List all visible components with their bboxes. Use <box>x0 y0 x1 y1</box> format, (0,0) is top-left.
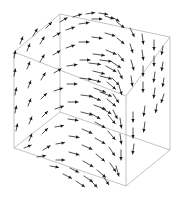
vector-arrow-head <box>14 106 17 109</box>
vector-arrow-head <box>13 69 16 72</box>
vector-arrow-head <box>160 67 163 70</box>
vector-arrow-head <box>99 17 102 20</box>
box-edge-front-top <box>14 52 126 96</box>
vector-arrow-head <box>75 100 78 103</box>
box-edge-depth-top-left <box>14 14 60 52</box>
vector-arrow-head <box>104 12 107 15</box>
vector-arrow-head <box>101 72 104 75</box>
vector-arrow-head <box>42 154 45 157</box>
box-edge-back-top <box>60 14 170 37</box>
vector-arrow-head <box>112 33 115 36</box>
vector-arrow-head <box>55 165 58 168</box>
vector-arrow-head <box>161 83 164 86</box>
vector-arrow-head <box>131 67 134 70</box>
vector-arrow-head <box>131 119 134 122</box>
box-edge-front-bottom <box>14 148 126 186</box>
vector-arrow-head <box>141 89 144 92</box>
vector-arrow-head <box>15 124 18 127</box>
vector-arrow-layer <box>13 11 165 187</box>
vector-arrow-head <box>76 152 79 155</box>
vector-arrow-head <box>74 82 77 85</box>
vector-arrow-head <box>152 47 155 50</box>
vector-arrow-head <box>87 58 90 61</box>
vector-arrow-head <box>62 158 65 161</box>
plot-canvas <box>0 0 184 202</box>
vector-arrow-head <box>154 109 157 112</box>
vector-arrow-head <box>61 141 64 144</box>
box-edge-depth-bottom-right <box>126 150 170 186</box>
vector-arrow-head <box>60 124 63 127</box>
vector-arrow-head <box>97 80 100 83</box>
vector-field-plot <box>0 0 184 202</box>
vector-arrow-head <box>152 63 155 66</box>
vector-arrow-head <box>119 157 122 160</box>
vector-arrow-head <box>108 77 111 80</box>
vector-arrow-head <box>14 88 17 91</box>
vector-arrow-head <box>91 11 94 14</box>
vector-arrow-head <box>116 173 119 176</box>
bounding-box-wireframe <box>14 14 170 186</box>
box-edge-back-bottom <box>60 112 170 150</box>
box-edge-depth-bottom-left <box>14 112 60 148</box>
vector-arrow-head <box>160 51 163 54</box>
vector-arrow-head <box>86 40 89 43</box>
